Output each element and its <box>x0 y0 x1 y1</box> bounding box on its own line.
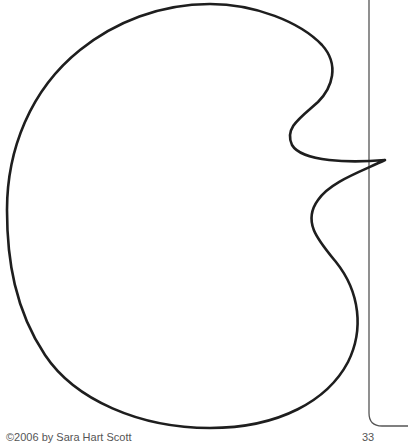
page-frame-line <box>369 0 408 426</box>
page-number: 33 <box>362 430 374 444</box>
footer-credit: ©2006 by Sara Hart Scott <box>6 430 132 444</box>
blob-outline <box>7 4 385 428</box>
